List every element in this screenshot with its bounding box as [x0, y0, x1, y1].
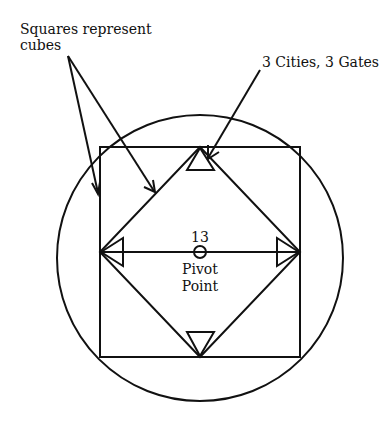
bottom-triangle [187, 332, 214, 356]
gates-arrow [208, 70, 260, 159]
label-squares-line1: Squares represent [20, 21, 152, 37]
label-squares-line2: cubes [20, 37, 61, 53]
arrow-to-gate [208, 70, 260, 158]
arrow-to-diamond [68, 56, 154, 191]
diagram-canvas: Squares represent cubes 3 Cities, 3 Gate… [0, 0, 380, 426]
label-pivot-line2: Point [182, 278, 219, 294]
label-number: 13 [191, 229, 209, 245]
label-gates: 3 Cities, 3 Gates [262, 54, 379, 70]
arrow-to-square [68, 56, 98, 193]
label-pivot-line1: Pivot [182, 261, 218, 277]
squares-arrows [68, 56, 155, 194]
arrowhead-diamond [144, 180, 155, 192]
top-triangle [187, 148, 214, 170]
